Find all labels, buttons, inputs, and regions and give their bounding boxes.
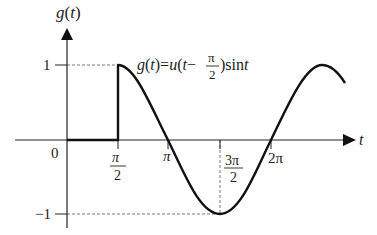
- svg-text:3π: 3π: [225, 153, 239, 168]
- y-tick-label-1: 1: [43, 57, 51, 73]
- svg-text:π: π: [208, 50, 215, 65]
- x-tick-label-2pi: 2π: [268, 150, 284, 166]
- x-tick-label-pi2: π 2: [110, 150, 126, 183]
- y-axis-label: g(t): [56, 3, 81, 22]
- svg-text:g(t)=u(t−: g(t)=u(t−: [137, 56, 196, 74]
- svg-text:2: 2: [114, 168, 121, 183]
- svg-text:)sint: )sint: [220, 56, 249, 74]
- x-axis-arrow-icon: [343, 134, 356, 146]
- x-tick-label-pi: π: [163, 148, 171, 164]
- x-tick-label-3pi2: 3π 2: [224, 153, 243, 185]
- y-tick-label-minus1: −1: [35, 206, 51, 222]
- x-tick-label-0: 0: [51, 145, 59, 161]
- svg-text:2: 2: [209, 67, 216, 82]
- equation-label: g(t)=u(t− π 2 )sint: [137, 50, 249, 82]
- signal-plot: g(t) t 1 −1 0 π 2 π 3π 2 2π g(t)=u(t− π …: [0, 0, 377, 235]
- y-axis-arrow-icon: [61, 28, 73, 40]
- svg-text:π: π: [112, 150, 120, 165]
- x-axis-label: t: [359, 131, 364, 148]
- svg-text:2: 2: [230, 170, 237, 185]
